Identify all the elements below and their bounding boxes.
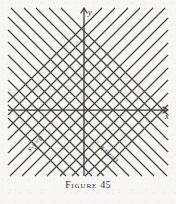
lattice-line (85, 93, 168, 176)
y-axis-label: y (87, 7, 92, 17)
lattice-line (8, 80, 104, 176)
lattice-line (49, 8, 168, 127)
lattice-line (8, 42, 142, 176)
lattice-line (10, 18, 168, 176)
lattice-line (72, 80, 168, 176)
caption-number: 45 (101, 180, 111, 190)
figure-plot-area: x y x-y=0 x+y=0 (0, 0, 176, 178)
lattice-line (8, 92, 92, 176)
equation-label-x-plus-y: x+y=0 (98, 142, 120, 164)
caption-word: Figure (65, 180, 97, 190)
lattice-line (8, 30, 154, 176)
x-axis (8, 107, 168, 113)
figure-page: x y x-y=0 x+y=0 Figure 45 (0, 0, 176, 204)
lattice-line (8, 8, 102, 102)
x-axis-label: x (164, 111, 169, 121)
lattice-diagram: x y x-y=0 x+y=0 (0, 0, 176, 178)
figure-caption: Figure 45 (0, 180, 176, 190)
